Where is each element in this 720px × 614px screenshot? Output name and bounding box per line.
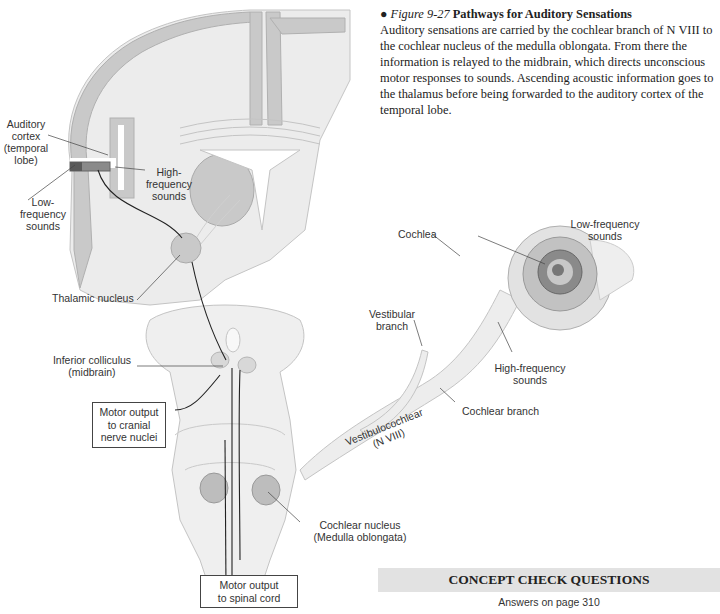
concept-check-answers-note: Answers on page 310 [378, 596, 720, 608]
label-line: sounds [490, 374, 570, 386]
label-line: sounds [140, 190, 198, 202]
figure-number: Figure 9-27 [391, 7, 450, 21]
label-low-frequency-cochlea: Low-frequency sounds [565, 218, 645, 242]
label-inferior-colliculus: Inferior colliculus (midbrain) [44, 354, 140, 378]
brain-section [69, 10, 350, 305]
label-auditory-cortex: Auditory cortex (temporal lobe) [2, 118, 50, 166]
label-thalamic-nucleus: Thalamic nucleus [52, 292, 134, 304]
label-line: High- [140, 166, 198, 178]
label-line: (midbrain) [44, 366, 140, 378]
label-line: Low-frequency [565, 218, 645, 230]
label-line: Inferior colliculus [44, 354, 140, 366]
bullet-icon: ● [380, 7, 387, 21]
label-cochlear-nucleus: Cochlear nucleus (Medulla oblongata) [305, 519, 415, 543]
box-line: Motor output [201, 579, 297, 592]
caption-body: Auditory sensations are carried by the c… [380, 22, 716, 118]
label-line: frequency [140, 178, 198, 190]
label-line: (temporal [2, 142, 50, 154]
label-line: lobe) [2, 154, 50, 166]
box-line: Motor output [93, 406, 165, 419]
box-line: to cranial [93, 419, 165, 432]
label-line: Auditory [2, 118, 50, 130]
label-low-frequency-cortex: Low- frequency sounds [14, 196, 72, 232]
label-cochlea: Cochlea [398, 228, 437, 240]
label-cochlear-branch: Cochlear branch [462, 405, 539, 417]
figure-title: Pathways for Auditory Sensations [453, 7, 632, 21]
label-high-frequency-cochlea: High-frequency sounds [490, 362, 570, 386]
box-line: to spinal cord [201, 592, 297, 605]
label-line: Low- [14, 196, 72, 208]
label-vestibular-branch: Vestibular branch [366, 308, 418, 332]
box-motor-output-cranial: Motor output to cranial nerve nuclei [92, 402, 166, 448]
figure-caption: ● Figure 9-27 Pathways for Auditory Sens… [380, 6, 716, 118]
label-line: sounds [14, 220, 72, 232]
concept-check-heading: CONCEPT CHECK QUESTIONS [378, 568, 720, 592]
label-line: High-frequency [490, 362, 570, 374]
label-line: branch [366, 320, 418, 332]
label-high-frequency-cortex: High- frequency sounds [140, 166, 198, 202]
label-line: Cochlear nucleus [305, 519, 415, 531]
label-line: frequency [14, 208, 72, 220]
label-line: (Medulla oblongata) [305, 531, 415, 543]
label-line: Vestibular [366, 308, 418, 320]
label-line: sounds [565, 230, 645, 242]
label-line: cortex [2, 130, 50, 142]
box-line: nerve nuclei [93, 431, 165, 444]
box-motor-output-spinal: Motor output to spinal cord [200, 575, 298, 608]
